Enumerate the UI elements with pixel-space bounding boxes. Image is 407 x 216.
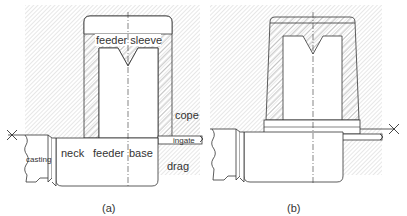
label-feeder-sleeve: feeder sleeve — [96, 34, 162, 46]
panel-b: (b) — [210, 5, 399, 214]
label-base: base — [129, 147, 153, 159]
label-feeder: feeder — [93, 147, 125, 159]
label-ingate: ingate — [173, 136, 195, 145]
feeder-sleeve-diagram: feeder sleeve cope ingate casting neck f… — [0, 0, 407, 216]
label-neck: neck — [61, 147, 85, 159]
caption-b: (b) — [287, 202, 300, 214]
panel-a: feeder sleeve cope ingate casting neck f… — [7, 5, 203, 214]
label-cope: cope — [175, 109, 199, 121]
label-drag: drag — [167, 160, 189, 172]
ingate-b — [342, 134, 382, 140]
neck-b — [236, 129, 240, 180]
feeder-base-b — [244, 132, 343, 182]
feeder-base-a — [56, 138, 158, 186]
label-casting: casting — [26, 155, 51, 164]
caption-a: (a) — [102, 202, 115, 214]
